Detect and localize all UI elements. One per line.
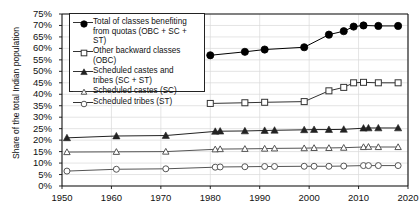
legend-marker-filled-triangle-icon bbox=[73, 66, 93, 77]
data-point-open-circle bbox=[262, 164, 268, 170]
data-point-open-square bbox=[375, 80, 381, 86]
legend-marker-glyph bbox=[79, 48, 89, 58]
legend-label-3: Scheduled castes (SC) bbox=[93, 86, 177, 96]
data-point-open-square bbox=[361, 79, 367, 85]
legend-marker-glyph bbox=[79, 87, 89, 97]
legend-label-1: Other backward classes (OBC) bbox=[93, 46, 201, 65]
data-point-open-square bbox=[81, 50, 87, 56]
data-point-open-square bbox=[351, 80, 357, 86]
data-point-open-circle bbox=[375, 163, 381, 169]
legend-label-line1: Scheduled tribes (ST) bbox=[93, 97, 172, 107]
data-point-filled-circle bbox=[325, 31, 332, 38]
legend-label-line2: tribes (SC + ST) bbox=[93, 76, 174, 86]
legend-label-2: Scheduled castes andtribes (SC + ST) bbox=[93, 66, 174, 85]
data-point-open-square bbox=[301, 99, 307, 105]
data-point-open-square bbox=[262, 99, 268, 105]
data-point-open-circle bbox=[301, 163, 307, 169]
data-point-filled-circle bbox=[241, 48, 248, 55]
data-point-filled-circle bbox=[395, 22, 402, 29]
data-point-open-square bbox=[207, 100, 213, 106]
legend-label-line2: from quotas (OBC + SC + ST) bbox=[93, 27, 201, 46]
legend-marker-open-triangle-icon bbox=[73, 86, 93, 97]
chart-legend: Total of classes benefitingfrom quotas (… bbox=[69, 13, 205, 92]
legend-marker-filled-circle-icon bbox=[73, 17, 93, 28]
data-point-filled-circle bbox=[350, 23, 357, 30]
legend-item-2: Scheduled castes andtribes (SC + ST) bbox=[73, 66, 201, 85]
data-point-open-circle bbox=[395, 163, 401, 169]
legend-item-0: Total of classes benefitingfrom quotas (… bbox=[73, 17, 201, 46]
data-point-open-circle bbox=[113, 166, 119, 172]
legend-item-4: Scheduled tribes (ST) bbox=[73, 97, 201, 108]
data-point-open-circle bbox=[163, 166, 169, 172]
data-point-filled-circle bbox=[340, 28, 347, 35]
data-point-open-circle bbox=[326, 163, 332, 169]
data-point-filled-circle bbox=[81, 20, 87, 26]
legend-label-line1: Scheduled castes (SC) bbox=[93, 86, 177, 96]
legend-label-4: Scheduled tribes (ST) bbox=[93, 97, 172, 107]
data-point-filled-circle bbox=[375, 22, 382, 29]
series-1 bbox=[207, 79, 401, 106]
legend-label-0: Total of classes benefitingfrom quotas (… bbox=[93, 17, 201, 46]
legend-label-line1: Scheduled castes and bbox=[93, 66, 174, 76]
data-point-filled-circle bbox=[207, 52, 214, 59]
data-point-open-square bbox=[341, 84, 347, 90]
legend-label-line1: Other backward classes (OBC) bbox=[93, 46, 201, 65]
legend-marker-glyph bbox=[79, 99, 89, 109]
data-point-open-square bbox=[326, 88, 332, 94]
legend-marker-glyph bbox=[79, 19, 89, 29]
data-point-open-triangle bbox=[81, 89, 87, 94]
data-point-filled-circle bbox=[360, 22, 367, 29]
data-point-filled-circle bbox=[301, 44, 308, 51]
legend-marker-glyph bbox=[79, 67, 89, 77]
data-point-open-circle bbox=[242, 164, 248, 170]
legend-marker-open-circle-icon bbox=[73, 97, 93, 108]
data-point-filled-circle bbox=[261, 46, 268, 53]
data-point-open-circle bbox=[272, 164, 278, 170]
data-point-open-circle bbox=[217, 164, 223, 170]
series-3 bbox=[64, 144, 402, 155]
data-point-open-circle bbox=[64, 168, 70, 174]
data-point-open-circle bbox=[311, 163, 317, 169]
data-point-open-square bbox=[242, 100, 248, 106]
data-point-open-circle bbox=[81, 101, 87, 107]
legend-marker-open-square-icon bbox=[73, 46, 93, 57]
legend-item-1: Other backward classes (OBC) bbox=[73, 46, 201, 65]
data-point-open-square bbox=[395, 80, 401, 86]
legend-label-line1: Total of classes benefiting bbox=[93, 17, 201, 27]
data-point-filled-triangle bbox=[81, 69, 87, 75]
data-point-open-circle bbox=[365, 163, 371, 169]
series-2 bbox=[63, 124, 401, 140]
data-point-open-circle bbox=[341, 163, 347, 169]
series-4 bbox=[64, 163, 401, 175]
series-0 bbox=[207, 22, 402, 59]
legend-item-3: Scheduled castes (SC) bbox=[73, 86, 201, 97]
